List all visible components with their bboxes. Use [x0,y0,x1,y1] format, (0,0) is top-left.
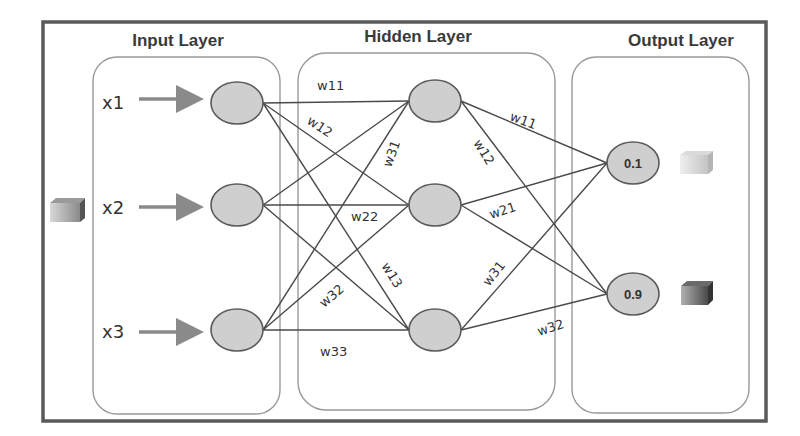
weight-label-w32-ih: w32 [316,281,346,310]
input-label-x1: x1 [102,92,124,113]
neural-network-diagram: Input Layer Hidden Layer Output Layer x1… [0,0,800,436]
cube-icon-dark [681,281,713,305]
weight-label-w11-ih: w11 [317,78,344,93]
weight-label-w12-ho: w12 [470,137,497,168]
weight-label-w21-ho: w21 [487,199,517,222]
output-value-1: 0.1 [624,156,642,171]
hidden-node-1 [409,80,461,122]
output-layer-box [572,57,749,413]
input-node-2 [211,184,263,226]
weight-label-w31-ho: w31 [480,258,509,289]
weight-label-w33-ih: w33 [320,344,347,359]
weight-label-w12-ih: w12 [304,113,335,140]
output-value-2: 0.9 [624,287,642,302]
hidden-node-3 [409,309,461,351]
weight-label-w13-ih: w13 [378,260,405,291]
cube-icon [50,198,85,222]
weight-label-w31-ih: w31 [380,138,403,169]
weight-label-w22-ih: w22 [351,209,378,224]
weight-label-w11-ho: w11 [508,109,539,132]
input-node-3 [211,309,263,351]
input-label-x2: x2 [102,197,124,218]
hidden-node-2 [409,184,461,226]
input-node-1 [211,82,263,124]
outer-frame [43,22,766,421]
input-label-x3: x3 [102,321,124,342]
weight-label-w32-ho: w32 [535,316,565,339]
cube-icon-light [680,151,713,174]
hidden-output-edges [461,101,607,330]
hidden-layer-title: Hidden Layer [364,27,472,46]
input-layer-title: Input Layer [132,31,224,50]
output-layer-title: Output Layer [628,31,734,50]
